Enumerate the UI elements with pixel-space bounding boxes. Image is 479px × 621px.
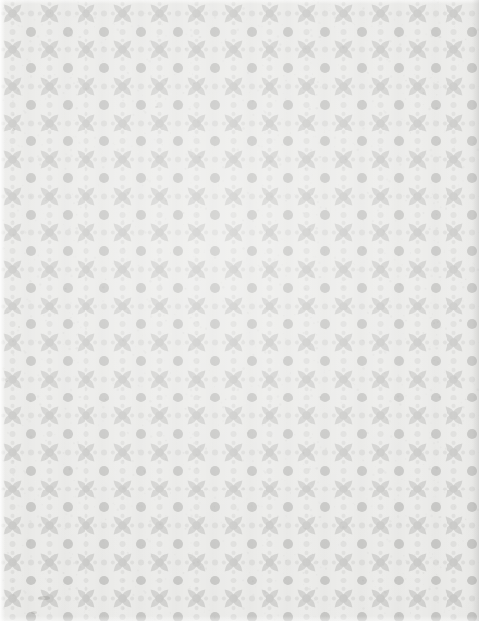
floral-lattice-pattern <box>0 0 479 621</box>
scanned-page <box>0 0 479 621</box>
